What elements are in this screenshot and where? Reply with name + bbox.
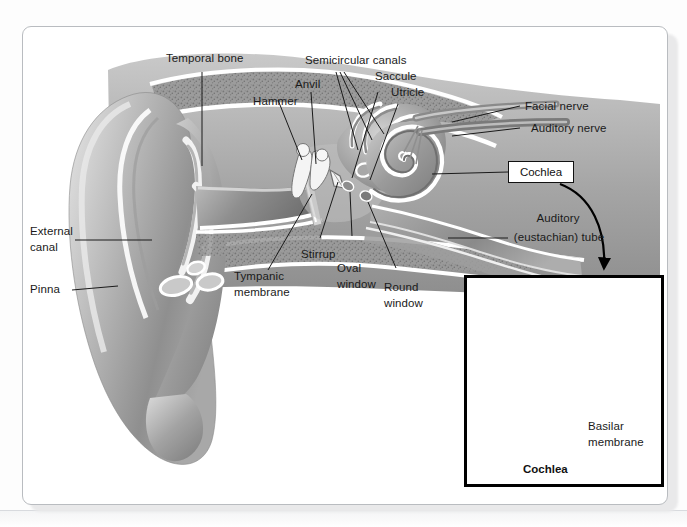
anvil-body [316,149,328,161]
label-tympanic-membrane-line1: Tympanic [234,270,284,284]
label-hammer: Hammer [253,95,298,109]
label-oval-window-line2: window [337,278,376,292]
label-tympanic-membrane-line2: membrane [234,286,290,300]
label-auditory-tube-line1: Auditory [512,212,604,226]
label-anvil: Anvil [295,78,320,92]
label-facial-nerve: Facial nerve [525,100,589,114]
label-oval-window-line1: Oval [337,262,361,276]
label-external-canal-line1: External [30,225,73,239]
cochlea-callout-label: Cochlea [520,166,562,178]
label-temporal-bone: Temporal bone [166,52,243,66]
label-round-window-line1: Round [384,281,418,295]
label-basilar-membrane-line2: membrane [588,436,644,450]
label-utricle: Utricle [391,86,424,100]
label-stirrup: Stirrup [301,248,336,262]
label-external-canal-line2: canal [30,241,58,255]
label-basilar-membrane-line1: Basilar [588,420,624,434]
cochlea-inset-panel [464,275,664,487]
label-semicircular-canals: Semicircular canals [305,54,407,68]
ear-anatomy-figure: Temporal bone Hammer Anvil Semicircular … [0,0,687,527]
label-round-window-line2: window [384,297,423,311]
label-pinna: Pinna [30,283,60,297]
label-auditory-tube-line2: (eustachian) tube [504,231,614,245]
label-auditory-nerve: Auditory nerve [531,122,607,136]
cochlea-callout-box: Cochlea [508,161,574,183]
label-saccule: Saccule [375,70,417,84]
inset-caption: Cochlea [523,463,568,475]
